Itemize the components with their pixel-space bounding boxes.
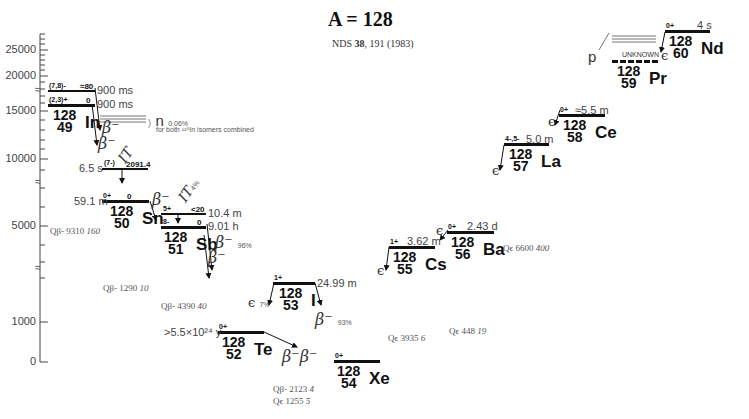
element-symbol: Ce (595, 124, 617, 141)
q-uncertainty: 40 (198, 301, 207, 311)
beta-pct: 93% (338, 319, 352, 326)
nuclide-label: 128 55 Cs (393, 250, 416, 276)
q-label: Qβ- (50, 226, 64, 236)
axis-tick-25000: 25000 (0, 43, 36, 55)
ec-label: ϵ (661, 48, 668, 63)
element-symbol: Te (254, 341, 273, 358)
q-label: Qϵ (449, 326, 459, 336)
q-value: Qϵ 3935 6 (388, 333, 425, 343)
q-uncertainty: 400 (536, 243, 550, 253)
q-number: 6600 (515, 243, 533, 253)
q-value: Qϵ 1255 5 (273, 396, 310, 406)
q-value: Qβ- 1290 10 (103, 283, 149, 293)
element-symbol: Cs (425, 256, 447, 273)
ec-label: ϵ (548, 114, 555, 129)
q-label: Qϵ (273, 396, 283, 406)
q-value: Qβ- 2123 4 (273, 384, 314, 394)
ec-label: ϵ (377, 263, 384, 278)
element-symbol: Nd (701, 40, 724, 57)
q-label: Qβ- (273, 384, 287, 394)
axis-tick-0: 0 (0, 355, 36, 367)
halflife-label: 59.1 m (74, 195, 108, 207)
nuclide-label: 128 60 Nd (669, 34, 692, 60)
spin-label: (2,3)+ (49, 96, 67, 103)
q-number: 448 (461, 326, 475, 336)
energy-label: <20 (191, 205, 205, 214)
spin-label: 8- (163, 218, 169, 225)
halflife-label: 6.5 s (79, 162, 103, 174)
nuclide-label: 128 58 Ce (563, 118, 586, 144)
element-symbol: Xe (369, 370, 390, 387)
energy-label: 0 (86, 96, 90, 105)
unknown-label: UNKNOWN (622, 51, 659, 58)
proton-label: p (588, 48, 596, 65)
q-uncertainty: 10 (140, 283, 149, 293)
element-symbol: Ba (483, 241, 505, 258)
element-symbol: Pr (649, 70, 667, 87)
beta-pct: 96% (238, 242, 252, 249)
spin-label: (7,8)- (49, 82, 66, 89)
nuclide-label: 128 51 Sb (164, 230, 187, 256)
axis-tick-15000: 15000 (0, 104, 36, 116)
nuclide-label: 128 57 La (509, 147, 532, 173)
halflife-label: 900 ms (97, 84, 133, 96)
q-number: 1290 (119, 283, 137, 293)
ec-text: ϵ (248, 295, 255, 310)
energy-label: 2091.4 (126, 160, 150, 169)
spin-label: 1+ (390, 238, 398, 245)
q-uncertainty: 160 (87, 226, 101, 236)
nuclide-label: 128 52 Te (222, 335, 245, 361)
axis-break-mark: ≈ (35, 262, 41, 273)
spin-label: 0+ (448, 223, 456, 230)
element-symbol: La (541, 153, 561, 170)
q-label: Qβ- (103, 283, 117, 293)
axis-break-mark: ≈ (35, 176, 41, 187)
beta-minus-label: β⁻ (208, 248, 226, 267)
q-value: Qβ- 4390 40 (161, 301, 207, 311)
spin-label: 5+ (163, 205, 171, 212)
nuclide-label: 128 59 Pr (617, 64, 640, 90)
q-number: 1255 (285, 396, 303, 406)
ec-label: ϵ (436, 223, 443, 238)
nuclide-label: 128 53 I (279, 286, 302, 312)
ec-pct: 7% (259, 301, 269, 308)
spin-label: 4-,5- (505, 135, 519, 142)
q-number: 9310 (66, 226, 84, 236)
nuclide-label: 128 49 In (53, 108, 76, 134)
beta-text: β⁻ (315, 310, 333, 329)
ec-label: ϵ 7% (248, 295, 270, 310)
energy-label: 0 (127, 192, 131, 201)
q-uncertainty: 19 (477, 326, 486, 336)
spin-label: 1+ (274, 274, 282, 281)
q-number: 2123 (289, 384, 307, 394)
axis-tick-20000: 20000 (0, 69, 36, 81)
q-value: Qϵ 448 19 (449, 326, 486, 336)
q-number: 4390 (177, 301, 195, 311)
halflife-label: 24.99 m (317, 277, 357, 289)
halflife-label: 4 s (697, 19, 712, 31)
halflife-label: 9.01 h (208, 220, 239, 232)
q-uncertainty: 4 (310, 384, 315, 394)
halflife-label: 900 ms (97, 98, 133, 110)
halflife-label: 10.4 m (208, 207, 242, 219)
double-beta-label: β⁻β⁻ (282, 347, 317, 366)
nuclide-label: 128 56 Ba (451, 235, 474, 261)
spin-label: (7-) (104, 159, 115, 166)
q-label: Qϵ (503, 243, 513, 253)
axis-break-mark: ≈ (35, 84, 41, 95)
ec-label: ϵ (492, 163, 499, 178)
spin-label: 0+ (560, 106, 568, 113)
halflife-label: 2.43 d (467, 220, 498, 232)
q-value: Qβ- 9310 160 (50, 226, 100, 236)
q-uncertainty: 5 (306, 396, 311, 406)
axis-tick-5000: 5000 (0, 219, 36, 231)
q-uncertainty: 6 (421, 333, 426, 343)
q-value: Qϵ 6600 400 (503, 243, 549, 253)
q-label: Qβ- (161, 301, 175, 311)
halflife-label: 5.0 m (526, 133, 554, 145)
axis-tick-10000: 10000 (0, 152, 36, 164)
axis-tick-1000: 1000 (0, 315, 36, 327)
beta-minus-label: β⁻ 93% (315, 310, 352, 329)
q-label: Qϵ (388, 333, 398, 343)
element-symbol: In (85, 114, 100, 131)
